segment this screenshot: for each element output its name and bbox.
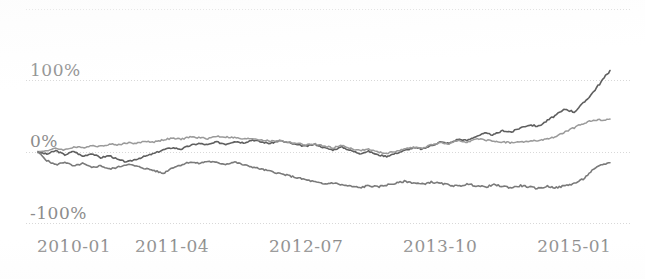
y-tick-label-1: 0% <box>30 131 58 151</box>
series-group <box>38 70 610 188</box>
x-tick-label-4: 2015-01 <box>537 236 611 256</box>
series-line-series_a <box>38 70 610 162</box>
series-line-series_b <box>38 119 610 153</box>
y-tick-label-2: -100% <box>30 203 87 223</box>
gridlines-group <box>26 9 632 224</box>
x-tick-label-2: 2012-07 <box>269 236 343 256</box>
x-tick-label-1: 2011-04 <box>135 236 209 256</box>
y-tick-label-0: 100% <box>30 60 81 80</box>
x-tick-label-3: 2013-10 <box>403 236 477 256</box>
chart-container: 100%0%-100% 2010-012011-042012-072013-10… <box>0 0 645 279</box>
x-tick-label-0: 2010-01 <box>37 236 111 256</box>
series-line-series_c <box>38 151 610 188</box>
